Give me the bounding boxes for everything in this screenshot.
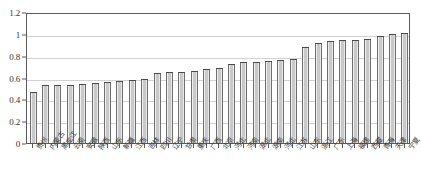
bar — [253, 62, 260, 143]
bar — [178, 72, 185, 143]
bar — [104, 82, 111, 143]
bar — [216, 68, 223, 143]
bar — [141, 79, 148, 143]
bar — [129, 80, 136, 143]
bar — [203, 69, 210, 143]
bar — [364, 39, 371, 143]
bar — [290, 59, 297, 143]
y-tick-label: 0.8 — [9, 52, 20, 62]
bar — [277, 60, 284, 143]
bar — [166, 72, 173, 143]
bars-group — [27, 14, 409, 143]
y-tick-label: 0 — [16, 139, 20, 149]
bar-chart: 00.20.40.60.811.2 贵州内蒙古黑龙江云南安徽陕西山东新疆江西吉林… — [0, 0, 421, 185]
bar — [302, 47, 309, 143]
y-tick-label: 1.2 — [9, 8, 20, 18]
bar — [265, 61, 272, 143]
y-axis: 00.20.40.60.811.2 — [0, 13, 24, 144]
bar — [315, 43, 322, 143]
bar — [339, 40, 346, 143]
y-tick-label: 0.2 — [9, 117, 20, 127]
bar — [30, 92, 37, 143]
bar — [92, 83, 99, 143]
bar — [389, 34, 396, 143]
y-tick-label: 0.4 — [9, 95, 20, 105]
bar — [352, 40, 359, 143]
bar — [240, 62, 247, 143]
x-axis-labels: 贵州内蒙古黑龙江云南安徽陕西山东新疆江西吉林四川辽宁甘肃重庆广西北京河北河南湖北… — [26, 147, 410, 185]
bar — [116, 81, 123, 143]
y-tick-label: 1 — [16, 30, 20, 40]
bar — [79, 84, 86, 143]
plot-area — [26, 13, 410, 144]
bar — [154, 73, 161, 143]
bar — [377, 36, 384, 143]
bar — [228, 64, 235, 143]
bar — [327, 41, 334, 143]
bar — [42, 85, 49, 143]
y-tick-label: 0.6 — [9, 74, 20, 84]
bar — [191, 71, 198, 143]
bar — [401, 33, 408, 143]
